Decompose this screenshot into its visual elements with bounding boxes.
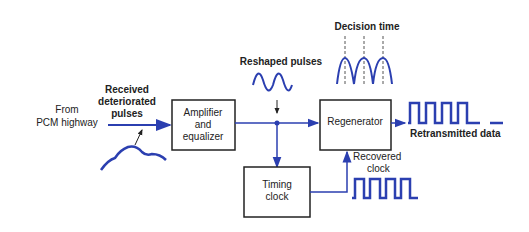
recovered-clock-arrow: [310, 152, 347, 192]
regenerator-label: Regenerator: [327, 116, 383, 127]
retransmitted-label: Retransmitted data: [410, 128, 501, 139]
recovered-label: Recovered: [353, 151, 401, 162]
pcm-regenerator-diagram: From PCM highway Received deteriorated p…: [0, 0, 529, 232]
source-label: From: [55, 104, 78, 115]
deteriorated-waveform: [101, 147, 166, 170]
decision-time-label: Decision time: [334, 21, 399, 32]
timing-label-2: clock: [266, 191, 290, 202]
pointer-arrow: [135, 130, 142, 145]
amplifier-label: Amplifier: [184, 107, 224, 118]
received-label-3: pulses: [111, 108, 143, 119]
recovered-label-2: clock: [367, 163, 391, 174]
received-label-2: deteriorated: [98, 96, 156, 107]
source-label-2: PCM highway: [36, 117, 98, 128]
reshaped-waveform: [253, 74, 292, 91]
retransmitted-waveform: [408, 103, 503, 123]
amplifier-label-3: equalizer: [183, 131, 224, 142]
timing-label: Timing: [262, 179, 292, 190]
amplifier-label-2: and: [195, 119, 212, 130]
received-label: Received: [105, 84, 149, 95]
recovered-clock-waveform: [352, 179, 418, 198]
reshaped-label: Reshaped pulses: [240, 56, 323, 67]
decision-markers: [345, 36, 383, 84]
